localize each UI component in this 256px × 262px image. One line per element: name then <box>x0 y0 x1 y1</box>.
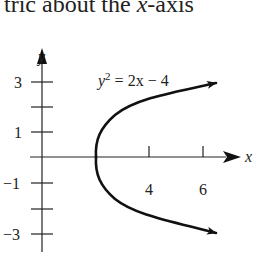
x-tick-label-6: 6 <box>199 181 207 198</box>
y-tick-label-neg1: −1 <box>3 175 20 192</box>
y-tick-label-3: 3 <box>14 74 22 91</box>
x-axis: x 4 6 <box>30 146 252 198</box>
parabola-graph: y 3 1 −1 −3 x 4 6 y2 = 2x − 4 <box>0 0 256 262</box>
y-tick-label-1: 1 <box>14 124 22 141</box>
equation-label: y2 = 2x − 4 <box>96 70 169 90</box>
x-tick-label-4: 4 <box>145 181 153 198</box>
x-axis-label: x <box>244 148 252 165</box>
y-axis-label: y <box>36 48 46 66</box>
y-tick-label-neg3: −3 <box>3 226 20 243</box>
parabola-curve <box>96 83 216 233</box>
y-axis: y 3 1 −1 −3 <box>3 48 53 252</box>
